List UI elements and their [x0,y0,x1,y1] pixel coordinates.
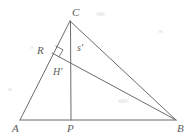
label-point-c: C [72,7,79,18]
scan-artifact [96,12,105,16]
geometry-figure: C A B P R s' H' [0,0,191,136]
scan-artifact [8,88,12,91]
label-segment-h-prime: H' [53,67,62,77]
label-segment-s-prime: s' [77,43,83,53]
scan-artifact [118,99,128,103]
scan-artifact [30,46,34,49]
label-point-b: B [177,123,184,134]
label-point-a: A [12,123,19,134]
label-point-r: R [37,45,44,56]
segment-ac [20,21,70,120]
segment-cp-altitude [71,21,72,120]
figure-canvas [0,0,191,136]
label-point-p: P [67,123,74,134]
scan-artifact [158,30,163,33]
segment-cb [70,21,176,120]
figure-line-group [20,21,176,120]
